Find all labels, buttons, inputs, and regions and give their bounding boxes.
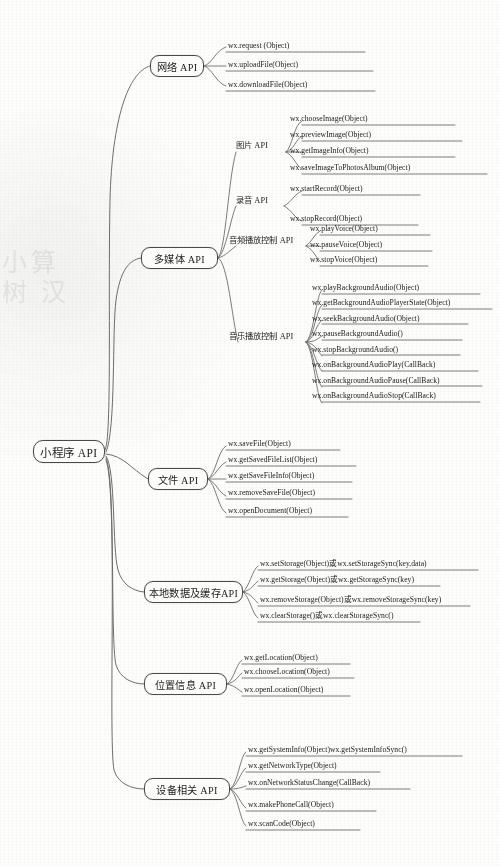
branch-node-network[interactable]: 网络 API bbox=[150, 55, 204, 77]
subgroup-label-image[interactable]: 图片 API bbox=[236, 140, 268, 151]
leaf-label[interactable]: wx.downloadFile(Object) bbox=[228, 80, 307, 90]
leaf-label[interactable]: wx.onBackgroundAudioPause(CallBack) bbox=[312, 376, 440, 386]
leaf-label[interactable]: wx.request (Object) bbox=[228, 41, 289, 51]
leaf-label[interactable]: wx.saveFile(Object) bbox=[228, 439, 291, 449]
branch-node-file[interactable]: 文件 API bbox=[148, 468, 208, 490]
leaf-label[interactable]: wx.getNetworkType(Object) bbox=[248, 761, 337, 771]
leaf-label[interactable]: wx.seekBackgroundAudio(Object) bbox=[312, 314, 420, 324]
leaf-label[interactable]: wx.getSavedFileList(Object) bbox=[228, 455, 317, 465]
leaf-label[interactable]: wx.onBackgroundAudioPlay(CallBack) bbox=[312, 360, 435, 370]
leaf-label[interactable]: wx.stopVoice(Object) bbox=[310, 255, 377, 265]
leaf-label[interactable]: wx.getStorage(Object)或wx.getStorageSync(… bbox=[260, 575, 414, 585]
leaf-label[interactable]: wx.getBackgroundAudioPlayerState(Object) bbox=[312, 298, 450, 308]
subgroup-label-music-playback[interactable]: 音乐播放控制 API bbox=[229, 331, 293, 342]
leaf-label[interactable]: wx.onBackgroundAudioStop(CallBack) bbox=[312, 391, 436, 401]
leaf-label[interactable]: wx.onNetworkStatusChange(CallBack) bbox=[248, 778, 370, 788]
leaf-label[interactable]: wx.saveImageToPhotosAlbum(Object) bbox=[290, 163, 410, 173]
leaf-label[interactable]: wx.getSaveFileInfo(Object) bbox=[228, 471, 314, 481]
leaf-label[interactable]: wx.chooseLocation(Object) bbox=[244, 667, 330, 677]
leaf-label[interactable]: wx.playBackgroundAudio(Object) bbox=[312, 283, 419, 293]
leaf-label[interactable]: wx.getImageInfo(Object) bbox=[290, 146, 369, 156]
leaf-label[interactable]: wx.clearStorage()或wx.clearStorageSync() bbox=[260, 611, 394, 621]
leaf-label[interactable]: wx.openDocument(Object) bbox=[228, 506, 312, 516]
mindmap-canvas: 小算树 汉 bbox=[0, 0, 500, 866]
leaf-label[interactable]: wx.openLocation(Object) bbox=[244, 685, 323, 695]
leaf-label[interactable]: wx.pauseBackgroundAudio() bbox=[312, 329, 403, 339]
leaf-label[interactable]: wx.startRecord(Object) bbox=[290, 184, 363, 194]
leaf-label[interactable]: wx.removeStorage(Object)或wx.removeStorag… bbox=[260, 595, 441, 605]
leaf-label[interactable]: wx.scanCode(Object) bbox=[248, 819, 315, 829]
connector-lines bbox=[0, 0, 500, 866]
subgroup-label-record[interactable]: 录音 API bbox=[236, 195, 268, 206]
leaf-label[interactable]: wx.makePhoneCall(Object) bbox=[248, 800, 334, 810]
leaf-label[interactable]: wx.uploadFile(Object) bbox=[228, 60, 298, 70]
leaf-label[interactable]: wx.stopRecord(Object) bbox=[290, 214, 362, 224]
leaf-label[interactable]: wx.getSystemInfo(Object)wx.getSystemInfo… bbox=[248, 745, 407, 755]
branch-node-location[interactable]: 位置信息 API bbox=[144, 673, 227, 695]
leaf-label[interactable]: wx.playVoice(Object) bbox=[310, 224, 378, 234]
leaf-label[interactable]: wx.removeSaveFile(Object) bbox=[228, 488, 315, 498]
branch-node-multimedia[interactable]: 多媒体 API bbox=[141, 247, 218, 269]
leaf-label[interactable]: wx.pauseVoice(Object) bbox=[310, 240, 382, 250]
leaf-label[interactable]: wx.setStorage(Object)或wx.setStorageSync(… bbox=[260, 559, 427, 569]
leaf-label[interactable]: wx.getLocation(Object) bbox=[244, 653, 318, 663]
leaf-label[interactable]: wx.chooseImage(Object) bbox=[290, 114, 368, 124]
leaf-label[interactable]: wx.previewImage(Object) bbox=[290, 130, 371, 140]
branch-node-device[interactable]: 设备相关 API bbox=[144, 778, 230, 800]
leaf-label[interactable]: wx.stopBackgroundAudio() bbox=[312, 345, 398, 355]
subgroup-label-audio-playback[interactable]: 音频播放控制 API bbox=[229, 235, 293, 246]
root-node[interactable]: 小程序 API bbox=[33, 440, 105, 463]
branch-node-storage[interactable]: 本地数据及缓存API bbox=[144, 581, 243, 603]
